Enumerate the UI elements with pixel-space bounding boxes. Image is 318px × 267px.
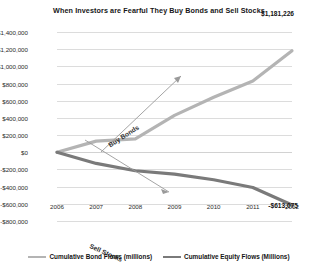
legend-label-bond: Cumulative Bond Flows (millions) <box>49 253 152 260</box>
y-tick-label: $1,200,000 <box>0 46 28 53</box>
y-tick-label: $1,400,000 <box>0 29 28 36</box>
sell-stocks-arrow <box>85 140 169 194</box>
y-tick-label: $0 <box>0 149 28 156</box>
y-tick-label: $800,000 <box>0 80 28 87</box>
line-cumulative-bond-flows <box>57 51 292 152</box>
y-tick-label: $400,000 <box>0 114 28 121</box>
chart-container: When Investors are Fearful They Buy Bond… <box>0 0 318 267</box>
line-cumulative-equity-flows <box>57 152 292 205</box>
legend-item-bond: Cumulative Bond Flows (millions) <box>28 253 152 260</box>
legend-swatch-bond-icon <box>28 256 46 258</box>
chart-legend: Cumulative Bond Flows (millions) Cumulat… <box>0 253 318 260</box>
y-tick-label: $600,000 <box>0 97 28 104</box>
legend-swatch-equity-icon <box>163 256 181 258</box>
legend-item-equity: Cumulative Equity Flows (Millions) <box>163 253 289 260</box>
y-tick-label: -$200,000 <box>0 166 28 173</box>
data-label-equity-2012: -$613,075 <box>268 202 298 209</box>
y-tick-label: -$800,000 <box>0 218 28 225</box>
series-lines <box>57 32 292 221</box>
gridline <box>57 221 292 222</box>
legend-label-equity: Cumulative Equity Flows (Millions) <box>184 253 289 260</box>
y-tick-label: $200,000 <box>0 132 28 139</box>
y-tick-label: -$400,000 <box>0 183 28 190</box>
plot-area: $1,400,000$1,200,000$1,000,000$800,000$6… <box>57 32 292 221</box>
data-label-bond-2012: $1,181,226 <box>261 10 294 17</box>
y-tick-label: -$600,000 <box>0 200 28 207</box>
y-tick-label: $1,000,000 <box>0 63 28 70</box>
